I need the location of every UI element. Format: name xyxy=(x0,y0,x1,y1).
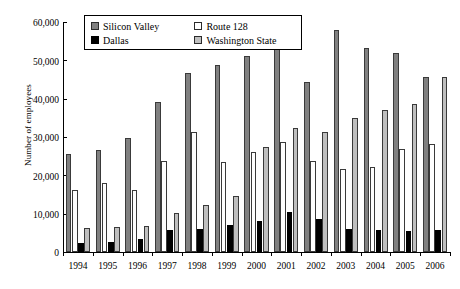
bar[interactable] xyxy=(412,104,418,252)
bar-group xyxy=(364,22,388,252)
y-axis-tick: 0 xyxy=(17,243,63,261)
bar[interactable] xyxy=(161,161,167,252)
bar[interactable] xyxy=(191,132,197,252)
x-axis-tick-label: 1999 xyxy=(217,261,236,271)
bar[interactable] xyxy=(263,147,269,252)
legend-swatch-icon xyxy=(194,22,202,30)
bar[interactable] xyxy=(102,183,108,252)
x-axis-tick-mark xyxy=(152,252,153,256)
legend-item-dallas[interactable]: Dallas xyxy=(91,35,194,46)
x-axis-tick-label: 1998 xyxy=(187,261,206,271)
bar[interactable] xyxy=(364,48,370,252)
bar[interactable] xyxy=(114,227,120,252)
bar-group xyxy=(96,22,120,252)
bar[interactable] xyxy=(352,118,358,252)
bar[interactable] xyxy=(167,230,173,252)
bar[interactable] xyxy=(215,65,221,252)
x-axis-tick-mark xyxy=(390,252,391,256)
bar[interactable] xyxy=(423,77,429,252)
y-axis-tick: 10,000 xyxy=(17,205,63,223)
bar[interactable] xyxy=(435,230,441,252)
bar-chart: Number of employees 60,00050,00040,00030… xyxy=(0,0,460,289)
y-axis-tick: 40,000 xyxy=(17,90,63,108)
bar[interactable] xyxy=(144,226,150,252)
bar[interactable] xyxy=(429,144,435,252)
legend-label: Silicon Valley xyxy=(103,21,159,32)
y-axis-tick-label: 60,000 xyxy=(17,18,63,28)
bar[interactable] xyxy=(340,169,346,252)
bar[interactable] xyxy=(287,212,293,252)
legend-item-washington-state[interactable]: Washington State xyxy=(194,35,296,46)
x-axis-tick-mark xyxy=(182,252,183,256)
bar[interactable] xyxy=(203,205,209,252)
x-axis-tick-mark xyxy=(63,252,64,256)
bar[interactable] xyxy=(406,231,412,252)
bar[interactable] xyxy=(399,149,405,253)
x-axis-tick-mark xyxy=(331,252,332,256)
legend-swatch-icon xyxy=(91,22,99,30)
bar[interactable] xyxy=(66,154,72,252)
bar[interactable] xyxy=(125,138,131,252)
x-axis-tick-mark xyxy=(93,252,94,256)
bar[interactable] xyxy=(78,243,84,252)
bar[interactable] xyxy=(442,77,448,252)
bar[interactable] xyxy=(227,225,233,252)
legend-row: Silicon Valley Route 128 xyxy=(91,19,296,33)
legend-item-route-128[interactable]: Route 128 xyxy=(194,21,296,32)
plot-area: 60,00050,00040,00030,00020,00010,0000 19… xyxy=(63,22,450,252)
bar[interactable] xyxy=(233,196,239,252)
bar-group xyxy=(185,22,209,252)
bar-group xyxy=(274,22,298,252)
x-axis-tick-label: 1996 xyxy=(128,261,147,271)
bar-group xyxy=(215,22,239,252)
y-axis-tick: 30,000 xyxy=(17,128,63,146)
x-axis-tick-mark xyxy=(212,252,213,256)
x-axis-line xyxy=(63,252,451,253)
bar[interactable] xyxy=(293,128,299,252)
bar[interactable] xyxy=(316,219,322,252)
x-axis-tick-mark xyxy=(271,252,272,256)
bar[interactable] xyxy=(251,152,257,252)
bar[interactable] xyxy=(138,239,144,252)
bar[interactable] xyxy=(155,102,161,252)
x-axis-tick-label: 1997 xyxy=(158,261,177,271)
bar[interactable] xyxy=(370,167,376,252)
bar[interactable] xyxy=(334,30,340,252)
legend-swatch-icon xyxy=(91,36,99,44)
bar[interactable] xyxy=(393,53,399,252)
bar[interactable] xyxy=(185,73,191,252)
legend-item-silicon-valley[interactable]: Silicon Valley xyxy=(91,21,194,32)
bar[interactable] xyxy=(257,221,263,252)
bar[interactable] xyxy=(197,229,203,252)
x-axis-tick-label: 2003 xyxy=(336,261,355,271)
bar[interactable] xyxy=(108,242,114,252)
bar[interactable] xyxy=(221,162,227,252)
bar[interactable] xyxy=(280,142,286,252)
x-axis-tick-label: 2002 xyxy=(307,261,326,271)
bar[interactable] xyxy=(174,213,180,252)
bar-group xyxy=(334,22,358,252)
bar[interactable] xyxy=(72,190,78,252)
x-axis-tick-label: 2000 xyxy=(247,261,266,271)
bar-group xyxy=(423,22,447,252)
bar[interactable] xyxy=(376,230,382,252)
bar[interactable] xyxy=(84,228,90,252)
x-axis-tick-label: 2004 xyxy=(366,261,385,271)
bar[interactable] xyxy=(310,161,316,252)
bar[interactable] xyxy=(132,190,138,252)
chart-legend: Silicon Valley Route 128 Dallas Washingt… xyxy=(84,15,302,50)
bar[interactable] xyxy=(322,132,328,252)
bar[interactable] xyxy=(244,56,250,252)
bar[interactable] xyxy=(382,110,388,252)
bar-group xyxy=(155,22,179,252)
bar[interactable] xyxy=(304,82,310,252)
y-axis-tick-label: 0 xyxy=(17,248,63,258)
bar[interactable] xyxy=(96,150,102,252)
x-axis-tick-label: 1994 xyxy=(68,261,87,271)
y-axis-tick: 50,000 xyxy=(17,51,63,69)
bar[interactable] xyxy=(274,34,280,253)
x-axis-tick-label: 2006 xyxy=(426,261,445,271)
bar-group xyxy=(244,22,268,252)
bar[interactable] xyxy=(346,229,352,252)
y-axis-tick: 60,000 xyxy=(17,13,63,31)
